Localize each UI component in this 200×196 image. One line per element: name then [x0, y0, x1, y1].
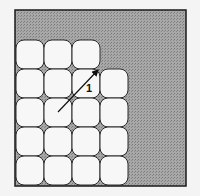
tile	[100, 69, 128, 98]
tile	[100, 98, 128, 127]
tile	[72, 40, 100, 69]
tile	[44, 69, 72, 98]
tile	[72, 98, 100, 127]
tile	[44, 127, 72, 156]
tile	[72, 127, 100, 156]
tile	[16, 127, 44, 156]
tile	[44, 156, 72, 185]
tile-grid-diagram: 1	[0, 0, 200, 196]
tile	[16, 98, 44, 127]
tile	[72, 156, 100, 185]
arrow-label: 1	[86, 82, 92, 94]
tile	[16, 69, 44, 98]
tile	[16, 156, 44, 185]
tile	[44, 40, 72, 69]
tile	[100, 156, 128, 185]
tile	[100, 127, 128, 156]
tile	[16, 40, 44, 69]
